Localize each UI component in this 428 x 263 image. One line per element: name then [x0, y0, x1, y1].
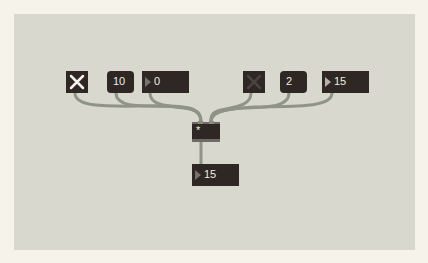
number-arrow-icon	[325, 77, 331, 87]
message-box-10[interactable]: 10	[107, 71, 134, 93]
number-box-right[interactable]: 15	[322, 71, 369, 93]
patcher-canvas[interactable]: 10 0 2 15 * 15	[14, 14, 415, 250]
number-value: 15	[204, 168, 216, 180]
toggle-right[interactable]	[243, 71, 265, 93]
number-box-output[interactable]: 15	[192, 164, 239, 186]
number-value: 0	[154, 75, 160, 87]
inlet-right[interactable]	[209, 121, 214, 124]
number-value: 15	[334, 75, 346, 87]
x-icon	[246, 74, 262, 90]
multiply-object[interactable]: *	[192, 122, 220, 142]
message-text: 10	[113, 75, 125, 87]
number-box-left[interactable]: 0	[142, 71, 189, 93]
message-text: 2	[286, 75, 292, 87]
toggle-left[interactable]	[66, 71, 88, 93]
number-arrow-icon	[145, 77, 151, 87]
message-box-2[interactable]: 2	[280, 71, 307, 93]
object-text: *	[196, 120, 200, 140]
x-icon	[69, 74, 85, 90]
number-arrow-icon	[195, 170, 201, 180]
